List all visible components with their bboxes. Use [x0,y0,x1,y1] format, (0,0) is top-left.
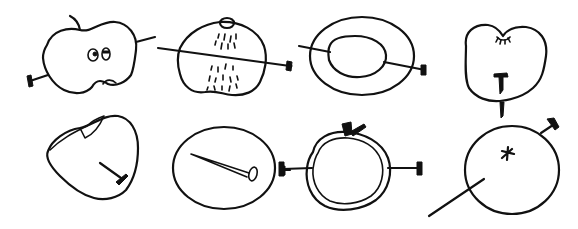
apple-bitten-icon [47,116,138,199]
apple-with-nail-inside-icon [173,127,290,209]
sketch-svg [0,0,578,229]
apple-with-eyes-icon [27,16,155,93]
juice-dots-icon [207,34,238,91]
apple-cross-section-icon [158,18,292,95]
star-calyx-icon [502,147,514,160]
apple-ring-slice-icon [288,17,426,95]
eyelash-icon [496,37,510,44]
apple-double-outline-icon [279,122,422,210]
apple-star-calyx-icon [429,118,559,216]
illustration-canvas: Apples pierced by nails [0,0,578,229]
apple-eyelash-nail-icon [466,25,547,118]
